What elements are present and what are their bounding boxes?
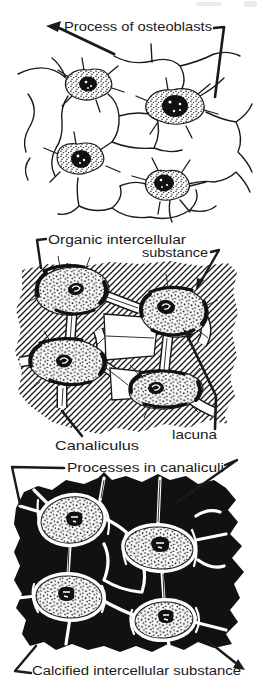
- leader-line-process-right: [214, 27, 224, 97]
- panel-calcified-matrix: Processes in canaliculi Calcified interc…: [12, 460, 245, 678]
- label-processes-in-canaliculi: Processes in canaliculi: [67, 461, 224, 475]
- panel-organic-matrix: Organic intercellular substance Canalicu…: [15, 233, 238, 453]
- osteoblast-process-network: [18, 44, 252, 222]
- label-lacuna: lacuna: [172, 427, 218, 442]
- bone-formation-figure: Process of osteoblasts: [0, 0, 265, 689]
- label-organic-intercellular: Organic intercellular: [48, 233, 186, 247]
- bone-formation-figure-page: Process of osteoblasts: [0, 0, 265, 689]
- label-process-of-osteoblasts: Process of osteoblasts: [64, 19, 213, 34]
- page-header-smudge: [196, 1, 257, 7]
- osteoblast-cells: [57, 69, 204, 200]
- label-calcified-intercellular-substance: Calcified intercellular substance: [32, 664, 241, 678]
- leader-bracket-organic-left: [37, 239, 46, 268]
- panel-osteoblasts: Process of osteoblasts: [18, 19, 252, 222]
- label-canaliculus: Canaliculus: [55, 438, 140, 453]
- label-organic-substance: substance: [142, 246, 208, 260]
